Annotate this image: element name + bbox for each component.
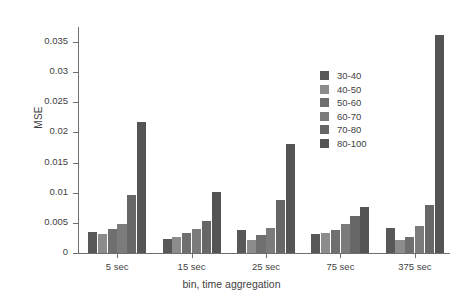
legend-swatch-icon: [320, 112, 329, 121]
x-tick-label: 25 sec: [252, 261, 280, 272]
bar: [435, 35, 444, 253]
bar: [286, 144, 295, 253]
bar: [386, 228, 395, 253]
bar: [415, 226, 424, 253]
bar: [331, 230, 340, 253]
bar: [137, 122, 146, 253]
bar: [311, 234, 320, 253]
legend-item[interactable]: 50-60: [320, 96, 367, 110]
bar: [237, 230, 246, 253]
bar: [360, 207, 369, 253]
bar: [405, 237, 414, 253]
y-tick-mark: [73, 253, 78, 254]
bar: [117, 224, 126, 253]
y-tick-label: 0: [4, 246, 68, 257]
bar: [163, 239, 172, 253]
x-tick-mark: [266, 253, 267, 258]
y-tick-label: 0.025: [4, 95, 68, 106]
x-tick-label: 15 sec: [178, 261, 206, 272]
bar: [395, 240, 404, 253]
legend-item[interactable]: 70-80: [320, 123, 367, 137]
bar-chart: MSE bin, time aggregation 00.0050.010.01…: [0, 0, 463, 301]
legend-item[interactable]: 60-70: [320, 110, 367, 124]
legend-label: 60-70: [337, 112, 361, 122]
legend-swatch-icon: [320, 139, 329, 148]
legend-label: 70-80: [337, 125, 361, 135]
bar: [108, 229, 117, 253]
plot-area: [78, 27, 450, 253]
legend-item[interactable]: 40-50: [320, 83, 367, 97]
x-tick-label: 75 sec: [326, 261, 354, 272]
bar: [276, 200, 285, 253]
bar-group: [237, 27, 295, 253]
x-tick-mark: [117, 253, 118, 258]
legend: 30-4040-5050-6060-7070-8080-100: [320, 69, 367, 150]
legend-swatch-icon: [320, 85, 329, 94]
legend-item[interactable]: 80-100: [320, 137, 367, 151]
legend-label: 50-60: [337, 98, 361, 108]
bar: [321, 233, 330, 253]
bar: [212, 192, 221, 253]
bar: [247, 240, 256, 253]
bar: [266, 228, 275, 253]
y-tick-label: 0.02: [4, 125, 68, 136]
bar: [202, 221, 211, 253]
bar: [98, 234, 107, 253]
bar: [341, 224, 350, 253]
y-tick-label: 0.03: [4, 65, 68, 76]
bar: [127, 195, 136, 253]
bar: [350, 216, 359, 253]
x-tick-label: 5 sec: [106, 261, 129, 272]
bar: [425, 205, 434, 253]
legend-swatch-icon: [320, 71, 329, 80]
bar-group: [163, 27, 221, 253]
y-tick-label: 0.01: [4, 186, 68, 197]
legend-swatch-icon: [320, 125, 329, 134]
legend-label: 40-50: [337, 85, 361, 95]
bar: [88, 232, 97, 253]
y-tick-label: 0.015: [4, 156, 68, 167]
bar: [192, 229, 201, 253]
bar: [182, 233, 191, 253]
x-tick-mark: [415, 253, 416, 258]
bar: [172, 237, 181, 253]
x-axis-line: [78, 253, 450, 254]
bar: [256, 235, 265, 253]
x-tick-mark: [192, 253, 193, 258]
legend-label: 80-100: [337, 139, 367, 149]
y-tick-label: 0.035: [4, 35, 68, 46]
x-axis-title: bin, time aggregation: [0, 278, 463, 290]
bar-group: [88, 27, 146, 253]
x-tick-label: 375 sec: [398, 261, 431, 272]
bar-group: [386, 27, 444, 253]
legend-label: 30-40: [337, 71, 361, 81]
legend-item[interactable]: 30-40: [320, 69, 367, 83]
y-tick-label: 0.005: [4, 216, 68, 227]
x-tick-mark: [340, 253, 341, 258]
legend-swatch-icon: [320, 98, 329, 107]
